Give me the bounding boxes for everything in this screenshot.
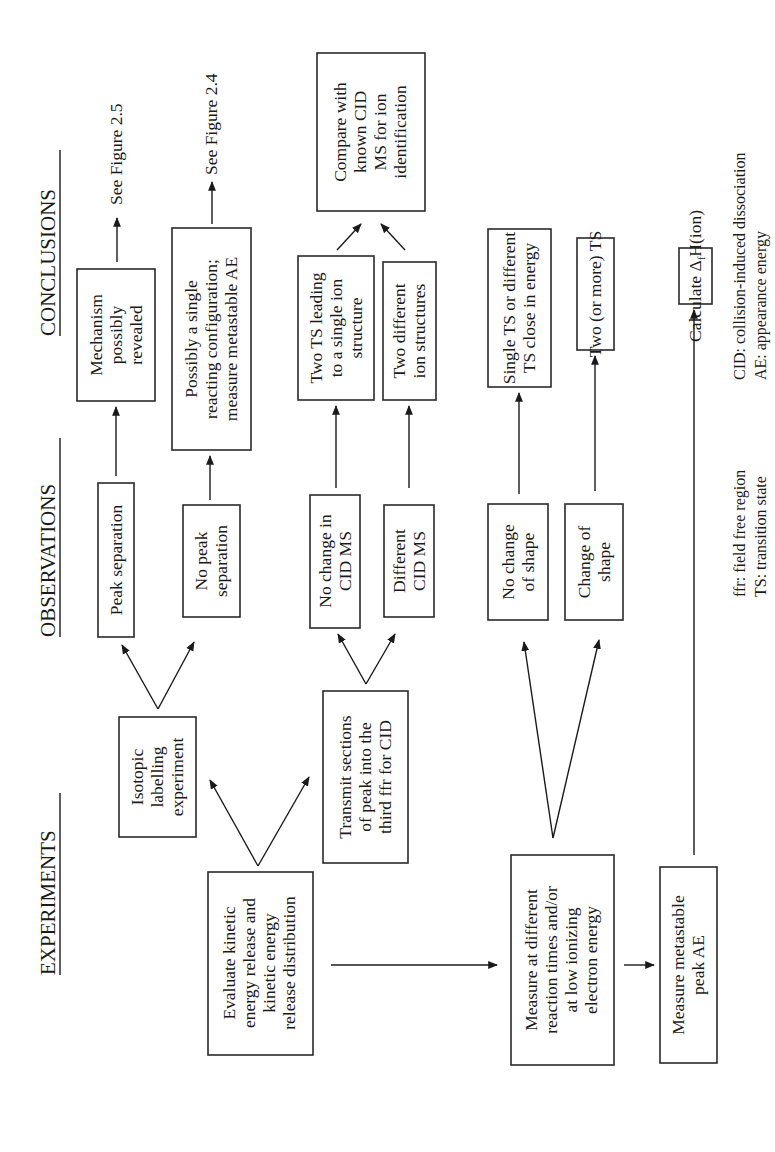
- svg-text:third ffr for CID: third ffr for CID: [375, 720, 395, 834]
- svg-text:measure metastable AE: measure metastable AE: [221, 257, 241, 421]
- flowchart-diagram: CONCLUSIONS OBSERVATIONS EXPERIMENTS: [0, 0, 775, 1152]
- svg-text:separation: separation: [211, 525, 231, 597]
- svg-text:Two TS leading: Two TS leading: [306, 272, 326, 383]
- footnotes: ffr: field free region TS: transition st…: [731, 152, 770, 597]
- svg-text:release distribution: release distribution: [279, 896, 299, 1030]
- svg-text:energy release and: energy release and: [239, 898, 259, 1028]
- text-single-config: Possibly a single reacting configuration…: [181, 257, 241, 421]
- see-figure-2-4: See Figure 2.4: [201, 73, 221, 175]
- svg-text:Compare with: Compare with: [330, 82, 350, 182]
- svg-text:No peak: No peak: [191, 531, 211, 590]
- svg-text:ion structures: ion structures: [409, 283, 429, 378]
- svg-text:No change in: No change in: [315, 514, 335, 608]
- svg-text:No change: No change: [498, 524, 518, 600]
- svg-text:kinetic energy: kinetic energy: [259, 913, 279, 1013]
- text-single-ts: Single TS or different TS close in energ…: [499, 232, 539, 385]
- svg-text:identification: identification: [390, 85, 410, 179]
- svg-text:Transmit sections: Transmit sections: [335, 715, 355, 839]
- svg-text:EXPERIMENTS: EXPERIMENTS: [36, 830, 60, 975]
- svg-text:labelling: labelling: [147, 746, 167, 807]
- text-two-structures: Two different ion structures: [389, 283, 429, 378]
- svg-text:at low ionizing: at low ionizing: [561, 907, 581, 1012]
- text-transmit: Transmit sections of peak into the third…: [335, 715, 395, 839]
- text-compare: Compare with known CID MS for ion identi…: [330, 82, 410, 182]
- svg-text:CID MS: CID MS: [409, 531, 429, 591]
- svg-text:CID: collision-induced dissoci: CID: collision-induced dissociation: [731, 152, 748, 380]
- flowchart-svg: CONCLUSIONS OBSERVATIONS EXPERIMENTS: [0, 0, 775, 1152]
- svg-text:Peak separation: Peak separation: [106, 505, 126, 616]
- header-conclusions: CONCLUSIONS: [36, 150, 60, 336]
- text-two-more-ts: Two (or more) TS: [585, 231, 605, 357]
- svg-text:Two (or more) TS: Two (or more) TS: [585, 231, 605, 357]
- svg-text:OBSERVATIONS: OBSERVATIONS: [36, 484, 60, 637]
- header-experiments: EXPERIMENTS: [36, 793, 60, 975]
- svg-text:peak AE: peak AE: [688, 935, 708, 995]
- text-peak-separation: Peak separation: [106, 505, 126, 616]
- text-isotopic: Isotopic labelling experiment: [127, 738, 187, 817]
- svg-text:CONCLUSIONS: CONCLUSIONS: [36, 189, 60, 336]
- svg-text:Different: Different: [389, 529, 409, 593]
- svg-text:Possibly a single: Possibly a single: [181, 280, 201, 398]
- svg-text:possibly: possibly: [106, 306, 126, 365]
- header-observations: OBSERVATIONS: [36, 438, 60, 637]
- svg-text:experiment: experiment: [167, 738, 187, 817]
- svg-text:TS: transition state: TS: transition state: [752, 476, 769, 597]
- svg-text:of peak into the: of peak into the: [355, 722, 375, 832]
- svg-text:TS close in energy: TS close in energy: [519, 243, 539, 374]
- svg-text:of shape: of shape: [518, 532, 538, 591]
- text-different-cid: Different CID MS: [389, 529, 429, 593]
- svg-text:electron energy: electron energy: [581, 906, 601, 1014]
- text-mechanism: Mechanism possibly revealed: [86, 294, 146, 376]
- svg-text:reaction times and/or: reaction times and/or: [541, 886, 561, 1034]
- svg-text:Calculate ΔfH(ion): Calculate ΔfH(ion): [685, 210, 707, 342]
- svg-text:Evaluate kinetic: Evaluate kinetic: [219, 906, 239, 1019]
- svg-text:Single TS or different: Single TS or different: [499, 232, 519, 385]
- svg-text:Measure metastable: Measure metastable: [668, 895, 688, 1035]
- svg-text:Two different: Two different: [389, 283, 409, 378]
- svg-text:CID MS: CID MS: [335, 531, 355, 591]
- see-figure-2-5: See Figure 2.5: [106, 103, 126, 205]
- text-evaluate: Evaluate kinetic energy release and kine…: [219, 896, 299, 1030]
- svg-text:ffr: field free region: ffr: field free region: [731, 470, 749, 597]
- svg-text:AE: appearance energy: AE: appearance energy: [752, 231, 770, 380]
- svg-text:MS for ion: MS for ion: [370, 93, 390, 170]
- svg-text:Measure at different: Measure at different: [521, 889, 541, 1031]
- svg-text:Change of: Change of: [574, 526, 594, 599]
- svg-text:Mechanism: Mechanism: [86, 294, 106, 376]
- text-no-change-shape: No change of shape: [498, 524, 538, 600]
- svg-text:revealed: revealed: [126, 305, 146, 365]
- svg-text:reacting configuration;: reacting configuration;: [201, 259, 221, 419]
- svg-text:known CID: known CID: [350, 91, 370, 173]
- text-no-peak-separation: No peak separation: [191, 525, 231, 597]
- text-measure: Measure at different reaction times and/…: [521, 886, 601, 1034]
- svg-text:structure: structure: [346, 297, 366, 358]
- text-calculate: Calculate ΔfH(ion): [685, 210, 707, 342]
- svg-text:to a single ion: to a single ion: [326, 278, 346, 377]
- svg-text:shape: shape: [594, 542, 614, 582]
- svg-text:Isotopic: Isotopic: [127, 749, 147, 806]
